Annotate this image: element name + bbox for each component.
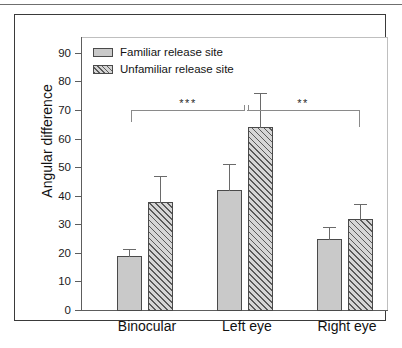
y-tick-label-0: 0 bbox=[37, 305, 71, 316]
legend-swatch-hatched-icon bbox=[93, 65, 113, 74]
error-bar-binocular-unfamiliar-cap bbox=[154, 176, 167, 177]
error-bar-binocular-familiar-cap bbox=[123, 249, 136, 250]
error-bar-right-eye-familiar-stem bbox=[329, 227, 330, 240]
bar-right-eye-unfamiliar bbox=[348, 219, 373, 311]
significance-bracket-left-end-tick bbox=[131, 110, 132, 122]
y-tick-label-20: 20 bbox=[37, 248, 71, 259]
y-tick-10 bbox=[75, 281, 81, 282]
y-tick-40 bbox=[75, 196, 81, 197]
legend-swatch-solid-grey-icon bbox=[93, 48, 113, 57]
y-tick-label-10: 10 bbox=[37, 276, 71, 287]
y-tick-label-90: 90 bbox=[37, 48, 71, 59]
y-tick-label-70: 70 bbox=[37, 105, 71, 116]
y-tick-90 bbox=[75, 53, 81, 54]
error-bar-left-eye-unfamiliar-cap bbox=[254, 93, 267, 94]
significance-bracket-right-end-tick bbox=[359, 110, 360, 127]
y-tick-0 bbox=[75, 310, 81, 311]
error-bar-right-eye-familiar-cap bbox=[323, 227, 336, 228]
bar-binocular-familiar bbox=[117, 256, 142, 311]
top-divider-rule bbox=[0, 4, 402, 5]
significance-stars-left: *** bbox=[165, 98, 211, 108]
y-tick-50 bbox=[75, 167, 81, 168]
y-tick-label-60: 60 bbox=[37, 134, 71, 145]
y-tick-label-30: 30 bbox=[37, 219, 71, 230]
bar-left-eye-familiar bbox=[217, 190, 242, 311]
legend: Familiar release site Unfamiliar release… bbox=[93, 45, 234, 79]
significance-bracket-left bbox=[131, 110, 245, 111]
significance-bracket-right-inner-tick bbox=[248, 105, 249, 111]
error-bar-left-eye-familiar-stem bbox=[229, 164, 230, 191]
y-tick-label-80: 80 bbox=[37, 76, 71, 87]
legend-label-unfamiliar: Unfamiliar release site bbox=[120, 63, 234, 75]
error-bar-right-eye-unfamiliar-stem bbox=[360, 204, 361, 220]
significance-bracket-right bbox=[247, 110, 360, 111]
figure-page: Angular difference 90 80 70 60 50 40 30 … bbox=[0, 0, 402, 348]
legend-item-unfamiliar: Unfamiliar release site bbox=[93, 62, 234, 76]
legend-label-familiar: Familiar release site bbox=[120, 46, 223, 58]
y-tick-label-40: 40 bbox=[37, 191, 71, 202]
legend-item-familiar: Familiar release site bbox=[93, 45, 234, 59]
y-tick-label-50: 50 bbox=[37, 162, 71, 173]
y-tick-20 bbox=[75, 253, 81, 254]
y-tick-60 bbox=[75, 139, 81, 140]
y-tick-30 bbox=[75, 224, 81, 225]
significance-bracket-left-inner-tick bbox=[244, 105, 245, 111]
y-tick-70 bbox=[75, 110, 81, 111]
error-bar-right-eye-unfamiliar-cap bbox=[354, 204, 367, 205]
error-bar-binocular-unfamiliar-stem bbox=[160, 176, 161, 203]
significance-stars-right: ** bbox=[280, 98, 326, 108]
x-category-label-binocular: Binocular bbox=[107, 318, 187, 334]
figure-border-box: Angular difference 90 80 70 60 50 40 30 … bbox=[14, 14, 386, 321]
y-axis-line bbox=[81, 37, 82, 311]
x-category-label-right-eye: Right eye bbox=[307, 318, 387, 334]
error-bar-left-eye-familiar-cap bbox=[223, 164, 236, 165]
error-bar-binocular-familiar-stem bbox=[129, 249, 130, 257]
bar-right-eye-familiar bbox=[317, 239, 342, 311]
x-category-label-left-eye: Left eye bbox=[207, 318, 287, 334]
y-tick-80 bbox=[75, 81, 81, 82]
bar-binocular-unfamiliar bbox=[148, 202, 173, 311]
bar-left-eye-unfamiliar bbox=[248, 127, 273, 311]
